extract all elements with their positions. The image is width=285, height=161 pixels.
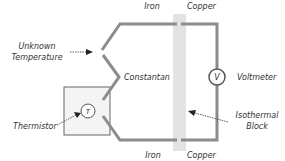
label-temperature: Temperature [11, 53, 62, 62]
label-voltmeter: Voltmeter [237, 73, 277, 82]
label-block: Block [246, 122, 268, 131]
label-iron-bottom: Iron [145, 151, 161, 160]
label-copper-top: Copper [187, 2, 217, 11]
voltmeter-glyph: V [214, 73, 220, 82]
label-unknown: Unknown [18, 42, 55, 51]
thermistor-glyph: T [86, 108, 91, 116]
isothermal-block [173, 14, 186, 151]
isothermal-arrow [188, 110, 228, 122]
label-constantan: Constantan [124, 73, 170, 82]
copper-wire-top [181, 24, 217, 69]
iron-wire-top [102, 24, 177, 50]
label-thermistor: Thermistor [13, 122, 57, 131]
copper-wire-bottom [181, 85, 217, 140]
thermocouple-diagram: V T Iron Copper Iron Copper Unknown Temp… [0, 0, 285, 161]
label-iron-top: Iron [144, 2, 160, 11]
label-isothermal: Isothermal [236, 111, 280, 120]
unknown-temp-arrow [70, 49, 93, 55]
label-copper-bottom: Copper [187, 151, 217, 160]
iron-wire-bottom [103, 116, 177, 140]
